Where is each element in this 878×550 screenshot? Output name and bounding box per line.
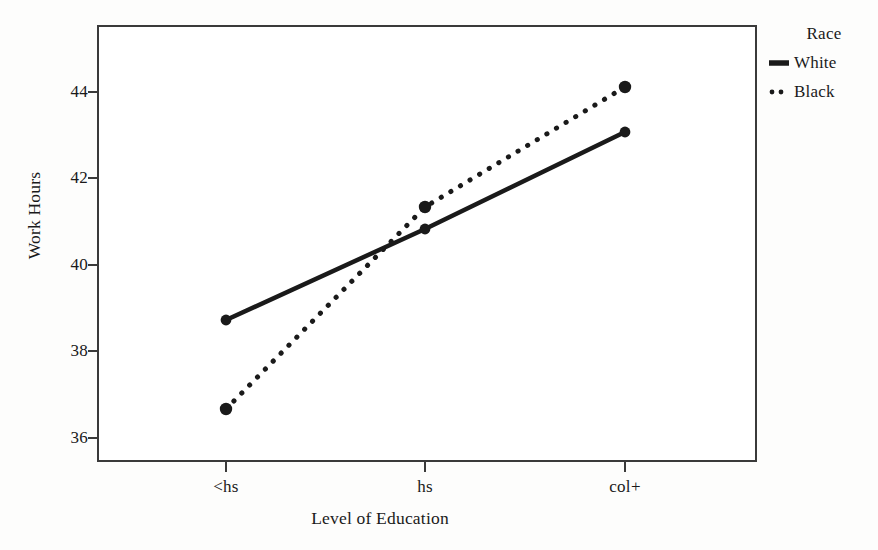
series-markers-black <box>220 81 631 415</box>
data-point-white-hs <box>420 224 431 235</box>
legend: Race White Black <box>768 24 876 102</box>
legend-item-white[interactable]: White <box>768 53 876 73</box>
y-axis-title: Work Hours <box>24 136 45 296</box>
x-axis-ticks <box>226 462 625 472</box>
y-tick-label-40: 40 <box>44 256 88 273</box>
data-point-black-colplus <box>619 81 631 93</box>
data-point-black-lths <box>220 403 232 415</box>
dotted-line-icon <box>768 85 792 99</box>
chart-page: 44 42 40 38 36 <hs hs col+ Level of Educ… <box>0 0 878 550</box>
y-tick-label-38: 38 <box>44 342 88 359</box>
series-line-black <box>226 87 625 409</box>
y-tick-label-42: 42 <box>44 169 88 186</box>
y-axis-ticks <box>88 92 97 438</box>
y-tick-label-44: 44 <box>44 83 88 100</box>
x-tick-label-lths: <hs <box>181 478 271 496</box>
plot-canvas <box>0 0 878 550</box>
x-tick-label-colplus: col+ <box>580 478 670 496</box>
solid-line-icon <box>768 56 792 70</box>
legend-label-black: Black <box>794 83 835 101</box>
legend-label-white: White <box>794 54 837 72</box>
data-point-white-colplus <box>620 127 631 138</box>
y-tick-label-36: 36 <box>44 429 88 446</box>
legend-title: Race <box>776 24 872 44</box>
data-point-black-hs <box>419 201 431 213</box>
x-tick-label-hs: hs <box>380 478 470 496</box>
x-axis-title: Level of Education <box>0 508 760 529</box>
legend-item-black[interactable]: Black <box>768 82 876 102</box>
data-point-white-lths <box>221 315 232 326</box>
